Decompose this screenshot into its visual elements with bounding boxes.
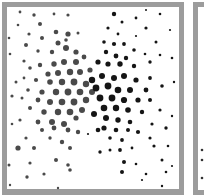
next-panel-dots: [0, 0, 204, 195]
